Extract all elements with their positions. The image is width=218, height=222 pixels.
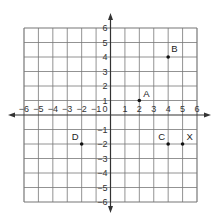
y-tick-label: 6: [102, 23, 107, 33]
y-tick-label: 4: [102, 52, 107, 62]
x-tick-label: −3: [62, 104, 72, 114]
point-b: [166, 55, 170, 59]
x-tick-label: −6: [19, 104, 29, 114]
x-tick-label: 6: [194, 104, 199, 114]
point-label-a: A: [143, 88, 150, 99]
x-tick-label: −2: [77, 104, 87, 114]
point-label-b: B: [171, 43, 177, 54]
x-axis-left-arrow-icon: [8, 113, 15, 118]
y-tick-label: 1: [102, 96, 107, 106]
y-axis-down-arrow-icon: [108, 206, 113, 213]
x-axis-right-arrow-icon: [204, 113, 211, 118]
plotted-points: ABCXD: [72, 43, 194, 146]
y-axis-up-arrow-icon: [108, 13, 113, 20]
x-tick-label: 5: [180, 104, 185, 114]
y-tick-label: −4: [97, 168, 107, 178]
y-tick-label: 5: [102, 38, 107, 48]
x-tick-label: 1: [122, 104, 127, 114]
point-label-c: C: [158, 131, 165, 142]
x-tick-label: −1: [91, 104, 101, 114]
point-label-d: D: [72, 131, 79, 142]
y-tick-label: −5: [97, 183, 107, 193]
y-tick-label: −2: [97, 139, 107, 149]
point-d: [80, 142, 84, 146]
x-tick-label: −4: [48, 104, 58, 114]
y-tick-label: 3: [102, 67, 107, 77]
x-axis-tick-labels: −6−5−4−3−2−11234560: [19, 104, 200, 114]
x-tick-label: 2: [137, 104, 142, 114]
point-x: [181, 142, 185, 146]
y-tick-label: −6: [97, 197, 107, 207]
point-c: [166, 142, 170, 146]
coordinate-plane: −6−5−4−3−2−11234560 654321−1−2−3−4−5−6 A…: [0, 0, 218, 222]
point-a: [138, 99, 142, 103]
y-tick-label: 2: [102, 81, 107, 91]
y-tick-label: −1: [97, 125, 107, 135]
point-label-x: X: [187, 131, 194, 142]
x-tick-label: 4: [166, 104, 171, 114]
x-tick-label: 3: [151, 104, 156, 114]
x-tick-label: −5: [33, 104, 43, 114]
y-tick-label: −3: [97, 154, 107, 164]
